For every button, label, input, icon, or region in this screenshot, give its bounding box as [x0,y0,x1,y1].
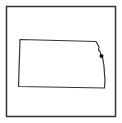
locator-map [0,0,122,123]
kansas-outline [19,40,106,89]
map-border [7,7,116,117]
map-frame [0,0,122,123]
location-marker-dot [100,54,104,58]
